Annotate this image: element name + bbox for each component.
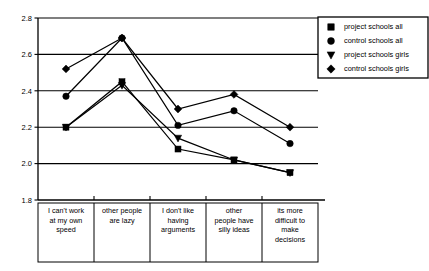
data-point-marker-square	[175, 146, 181, 152]
data-point-marker-circle-legend	[328, 38, 335, 45]
series-markers-group	[62, 34, 294, 176]
y-tick-label: 2.0	[22, 159, 32, 168]
data-point-marker-circle	[231, 108, 237, 114]
x-category-label-line: people have	[214, 216, 253, 225]
x-category-label-line: speed	[56, 225, 76, 234]
y-tick-labels-group: 1.82.02.22.42.62.8	[22, 14, 32, 205]
legend-label: control schools girls	[344, 64, 409, 73]
chart-canvas: 1.82.02.22.42.62.8 I can't workat my own…	[0, 0, 429, 271]
x-category-labels-group: I can't workat my ownspeedother peoplear…	[48, 206, 305, 244]
x-category-label-line: difficult to	[275, 216, 305, 225]
series-line-diamond	[66, 38, 290, 127]
legend-label: project schools all	[344, 22, 403, 31]
x-category-label-line: at my own	[50, 216, 83, 225]
line-chart: 1.82.02.22.42.62.8 I can't workat my own…	[0, 0, 429, 271]
x-category-label-line: other	[226, 206, 243, 215]
legend-label: control schools all	[344, 36, 403, 45]
y-tick-label: 2.2	[22, 123, 32, 132]
x-category-label-line: I can't work	[48, 206, 85, 215]
y-tick-label: 2.6	[22, 50, 32, 59]
legend-label: project schools girls	[344, 50, 409, 59]
data-point-marker-diamond	[62, 65, 70, 73]
legend: project schools allcontrol schools allpr…	[318, 17, 428, 78]
y-tick-label: 2.4	[22, 87, 32, 96]
data-point-marker-diamond	[230, 91, 238, 99]
x-category-label-line: decisions	[275, 235, 305, 244]
x-category-label-line: are lazy	[109, 216, 135, 225]
x-category-label-line: arguments	[161, 225, 195, 234]
data-point-marker-circle	[63, 93, 69, 99]
x-category-label-line: silly ideas	[218, 225, 250, 234]
x-category-label-line: its more	[277, 206, 303, 215]
y-tick-label: 1.8	[22, 196, 32, 205]
data-point-marker-square-legend	[328, 24, 334, 30]
y-tick-label: 2.8	[22, 14, 32, 23]
x-category-label-line: I don't like	[162, 206, 194, 215]
x-category-label-line: other people	[102, 206, 142, 215]
data-point-marker-circle	[175, 122, 181, 128]
series-line-triangle-down	[66, 85, 290, 172]
data-point-marker-circle	[287, 140, 293, 146]
data-point-marker-diamond	[286, 123, 294, 131]
x-category-label-line: having	[167, 216, 188, 225]
x-category-label-line: make	[281, 225, 299, 234]
